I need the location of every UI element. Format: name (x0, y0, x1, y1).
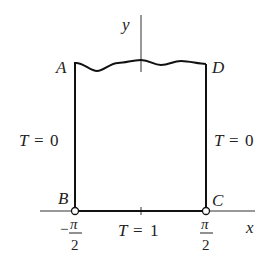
svg-text:=: = (229, 131, 239, 150)
svg-text:=: = (133, 221, 143, 240)
svg-text:2: 2 (202, 237, 210, 253)
corner-c-label: C (212, 191, 224, 210)
svg-text:−: − (60, 221, 68, 237)
strip-diagram: y x A D B C T = 0 T = 0 T = 1 − π 2 π 2 (0, 0, 275, 267)
tick-pi-over-2: π 2 (200, 216, 213, 253)
svg-text:2: 2 (71, 237, 79, 253)
point-c-circle (203, 208, 210, 215)
x-axis-label: x (245, 218, 254, 237)
tick-neg-pi-over-2: − π 2 (60, 216, 82, 253)
point-b-circle (72, 208, 79, 215)
left-condition: T = 0 (19, 131, 59, 150)
bottom-condition: T = 1 (118, 221, 159, 240)
svg-text:1: 1 (150, 221, 159, 240)
right-condition: T = 0 (214, 131, 254, 150)
svg-text:T: T (214, 131, 225, 150)
y-axis-label: y (120, 15, 130, 34)
corner-a-label: A (55, 58, 67, 77)
svg-text:π: π (201, 216, 209, 232)
corner-b-label: B (58, 189, 69, 208)
corner-d-label: D (211, 58, 225, 77)
svg-text:T: T (19, 131, 30, 150)
svg-text:T: T (118, 221, 129, 240)
svg-text:0: 0 (245, 131, 254, 150)
svg-text:0: 0 (50, 131, 59, 150)
svg-text:=: = (34, 131, 44, 150)
svg-text:π: π (70, 216, 78, 232)
